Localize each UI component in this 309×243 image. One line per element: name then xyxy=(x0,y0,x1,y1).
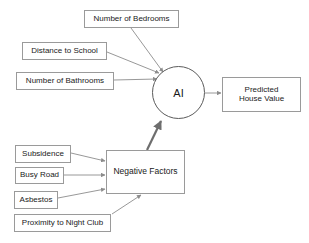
node-predicted-house-value[interactable]: Predicted House Value xyxy=(222,77,301,112)
node-number-of-bedrooms[interactable]: Number of Bedrooms xyxy=(84,10,179,28)
edge-school-to-ai xyxy=(107,52,159,73)
node-negative-factors[interactable]: Negative Factors xyxy=(106,150,185,194)
node-label: Busy Road xyxy=(20,171,59,180)
node-label: Subsidence xyxy=(22,150,64,159)
node-asbestos[interactable]: Asbestos xyxy=(14,191,58,209)
edge-subsidence-to-negative xyxy=(71,153,105,161)
node-ai-circle[interactable]: AI xyxy=(152,66,205,119)
node-label: Distance to School xyxy=(31,47,98,56)
node-label: Number of Bedrooms xyxy=(93,15,169,24)
edge-asbestos-to-negative xyxy=(58,189,105,198)
node-distance-to-school[interactable]: Distance to School xyxy=(22,42,107,60)
node-proximity-to-night-club[interactable]: Proximity to Night Club xyxy=(14,214,111,232)
node-label: Predicted House Value xyxy=(239,86,284,104)
node-number-of-bathrooms[interactable]: Number of Bathrooms xyxy=(16,72,114,90)
node-label: Proximity to Night Club xyxy=(22,219,103,228)
edge-negative-to-ai xyxy=(147,121,161,150)
node-subsidence[interactable]: Subsidence xyxy=(15,145,71,163)
node-label: Asbestos xyxy=(20,196,53,205)
node-busy-road[interactable]: Busy Road xyxy=(15,167,64,184)
node-label: AI xyxy=(173,87,183,99)
edge-bathrooms-to-ai xyxy=(114,79,157,80)
edge-nightclub-to-negative xyxy=(112,195,141,214)
node-label: Number of Bathrooms xyxy=(26,77,104,86)
diagram-canvas: Number of Bedrooms Distance to School Nu… xyxy=(0,0,309,243)
edge-bedrooms-to-ai xyxy=(131,28,163,72)
node-label: Negative Factors xyxy=(113,167,177,177)
